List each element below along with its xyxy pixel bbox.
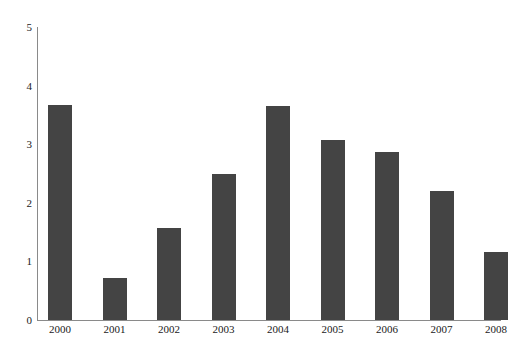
x-axis-tick-label: 2008 — [466, 324, 512, 335]
x-axis-tick-label: 2003 — [194, 324, 254, 335]
bar-chart-figure: 012345 200020012002200320042005200620072… — [0, 0, 512, 359]
x-axis-tick-label: 2005 — [303, 324, 363, 335]
bar — [430, 191, 454, 320]
bar — [266, 106, 290, 320]
bar-series: 200020012002200320042005200620072008 — [0, 0, 512, 359]
bar — [212, 174, 236, 321]
bar — [157, 228, 181, 320]
bar — [484, 252, 508, 320]
bar — [321, 140, 345, 320]
x-axis-tick-label: 2000 — [30, 324, 90, 335]
bar — [48, 105, 72, 320]
x-axis-tick-label: 2006 — [357, 324, 417, 335]
x-axis-tick-label: 2007 — [412, 324, 472, 335]
bar — [375, 152, 399, 320]
bar — [103, 278, 127, 320]
x-axis-tick-label: 2004 — [248, 324, 308, 335]
x-axis-tick-label: 2002 — [139, 324, 199, 335]
x-axis-tick-label: 2001 — [85, 324, 145, 335]
